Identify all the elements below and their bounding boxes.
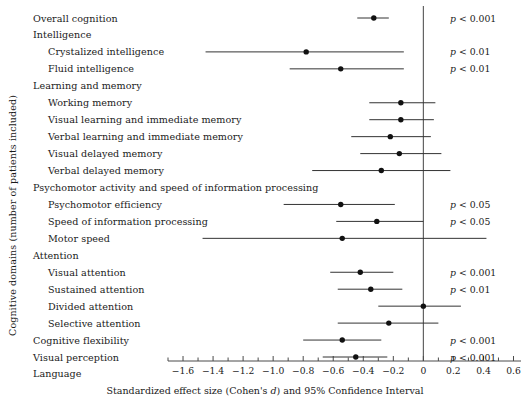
row-label: Speed of information processing bbox=[48, 217, 208, 227]
effect-size-marker bbox=[340, 337, 345, 342]
row-label: Sustained attention bbox=[48, 285, 144, 295]
x-axis-label-suffix: ) and 95% Confidence Interval bbox=[277, 385, 424, 396]
row-label: Psychomotor efficiency bbox=[48, 200, 162, 210]
row-label: Learning and memory bbox=[33, 81, 142, 91]
effect-size-marker bbox=[398, 117, 403, 122]
row-label: Fluid intelligence bbox=[48, 64, 134, 74]
effect-size-marker bbox=[338, 202, 343, 207]
effect-size-marker bbox=[358, 270, 363, 275]
p-value-label: p < 0.05 bbox=[450, 200, 490, 209]
p-value-label: p < 0.01 bbox=[450, 64, 490, 73]
x-axis-label-prefix: Standardized effect size (Cohen's bbox=[106, 385, 270, 396]
row-label: Intelligence bbox=[33, 30, 91, 40]
p-value-label: p < 0.01 bbox=[450, 47, 490, 56]
row-label: Working memory bbox=[48, 98, 132, 108]
p-value-label: p < 0.05 bbox=[450, 217, 490, 226]
effect-size-marker bbox=[303, 49, 308, 54]
effect-size-marker bbox=[353, 354, 358, 359]
p-value-label: p < 0.001 bbox=[450, 336, 496, 345]
effect-size-marker bbox=[388, 134, 393, 139]
effect-size-marker bbox=[374, 219, 379, 224]
row-label: Visual attention bbox=[48, 268, 126, 278]
effect-size-marker bbox=[421, 303, 426, 308]
row-label: Overall cognition bbox=[33, 14, 118, 24]
row-label: Language bbox=[33, 369, 82, 379]
p-value-label: p < 0.001 bbox=[450, 14, 496, 23]
row-label: Visual perception bbox=[33, 353, 119, 363]
row-label: Motor speed bbox=[48, 234, 110, 244]
x-tick-label: 0.6 bbox=[491, 366, 530, 375]
p-value-label: p < 0.001 bbox=[450, 353, 496, 362]
effect-size-marker bbox=[386, 320, 391, 325]
row-label: Verbal learning and immediate memory bbox=[48, 132, 243, 142]
effect-size-marker bbox=[340, 236, 345, 241]
effect-size-marker bbox=[398, 100, 403, 105]
row-label: Visual learning and immediate memory bbox=[48, 115, 241, 125]
row-label: Cognitive flexibility bbox=[33, 336, 129, 346]
effect-size-marker bbox=[397, 151, 402, 156]
row-label: Verbal delayed memory bbox=[48, 166, 164, 176]
effect-size-marker bbox=[338, 66, 343, 71]
x-axis-label: Standardized effect size (Cohen's d) and… bbox=[0, 385, 530, 396]
row-label: Attention bbox=[33, 251, 79, 261]
effect-size-marker bbox=[379, 168, 384, 173]
effect-size-marker bbox=[371, 15, 376, 20]
p-value-label: p < 0.001 bbox=[450, 268, 496, 277]
effect-size-marker bbox=[368, 287, 373, 292]
forest-plot: Cognitive domains (number of patients in… bbox=[0, 0, 530, 409]
row-label: Crystalized intelligence bbox=[48, 47, 164, 57]
row-label: Selective attention bbox=[48, 319, 141, 329]
p-value-label: p < 0.01 bbox=[450, 285, 490, 294]
row-label: Psychomotor activity and speed of inform… bbox=[33, 183, 318, 193]
row-label: Visual delayed memory bbox=[48, 149, 162, 159]
row-label: Divided attention bbox=[48, 302, 133, 312]
